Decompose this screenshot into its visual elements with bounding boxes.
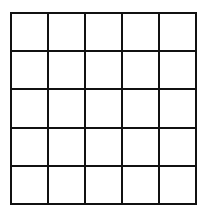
grid-row [11,128,196,166]
grid-cell [122,13,159,51]
grid-body [11,13,196,204]
grid-cell [159,13,196,51]
grid-cell [122,128,159,166]
grid-cell [122,166,159,204]
grid-row [11,166,196,204]
grid-cell [159,166,196,204]
grid-cell [11,89,48,127]
grid-cell [48,13,85,51]
grid-cell [159,128,196,166]
grid-cell [48,166,85,204]
grid-cell [48,89,85,127]
grid-cell [85,89,122,127]
grid-row [11,51,196,89]
grid-cell [85,51,122,89]
grid-row [11,89,196,127]
grid-container [10,12,197,205]
grid-cell [159,89,196,127]
grid-cell [85,166,122,204]
grid-cell [11,13,48,51]
grid-cell [122,89,159,127]
grid-cell [11,128,48,166]
grid-cell [11,166,48,204]
grid-cell [11,51,48,89]
grid-cell [85,128,122,166]
grid-row [11,13,196,51]
grid-cell [85,13,122,51]
grid-cell [122,51,159,89]
grid-cell [48,51,85,89]
grid-cell [159,51,196,89]
grid-cell [48,128,85,166]
grid-5x5 [10,12,197,205]
